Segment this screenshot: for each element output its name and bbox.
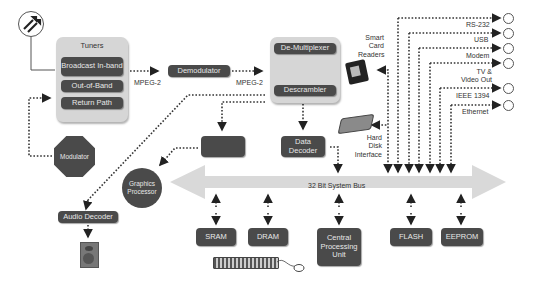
mouse-icon — [276, 254, 306, 274]
speaker-icon — [80, 242, 99, 268]
smart-card-icon — [345, 59, 369, 85]
eeprom-block[interactable]: EEPROM — [441, 228, 483, 246]
tuner-return-path[interactable]: Return Path — [61, 97, 123, 109]
port-usb[interactable] — [503, 28, 514, 39]
port-usb-label: USB — [474, 36, 488, 44]
cpu-block[interactable]: Central Processing Unit — [317, 228, 361, 266]
tuner-broadcast-inband[interactable]: Broadcast In-band — [61, 57, 123, 76]
port-rs232[interactable] — [503, 13, 514, 24]
demux-group: De-Multiplexer Descrambler — [270, 37, 340, 103]
dram-block[interactable]: DRAM — [248, 228, 288, 246]
system-bus-label: 32 Bit System Bus — [308, 182, 365, 190]
tuners-title: Tuners — [56, 41, 128, 50]
antenna-icon — [18, 11, 44, 37]
port-modem-label: Modem — [466, 52, 489, 60]
sram-block[interactable]: SRAM — [196, 228, 236, 246]
port-ieee1394-label: IEEE 1394 — [456, 92, 489, 100]
mpeg2-label-2: MPEG-2 — [236, 79, 263, 87]
descrambler-block[interactable]: Descrambler — [274, 85, 336, 96]
smart-card-label: Smart Card Readers — [358, 34, 384, 59]
tuner-out-of-band[interactable]: Out-of-Band — [61, 80, 123, 92]
tuners-group: Tuners Broadcast In-band Out-of-Band Ret… — [56, 37, 128, 122]
graphics-processor-label: Graphics Processor — [125, 180, 159, 196]
port-ethernet-label: Ethernet — [462, 108, 488, 116]
flash-block[interactable]: FLASH — [390, 228, 432, 246]
port-ethernet[interactable] — [503, 100, 514, 111]
hard-disk-label: Hard Disk Interface — [352, 134, 382, 159]
audio-decoder-block[interactable]: Audio Decoder — [58, 211, 118, 223]
keyboard-icon — [213, 257, 279, 269]
data-decoder-block[interactable]: Data Decoder — [281, 136, 325, 157]
port-tv-video-out-label: TV & Video Out — [458, 68, 492, 85]
port-modem[interactable] — [503, 43, 514, 54]
port-ieee1394[interactable] — [503, 83, 514, 94]
modulator-label: Modulator — [60, 153, 89, 160]
port-tv-video-out[interactable] — [503, 58, 514, 69]
mpeg2-label-1: MPEG-2 — [134, 79, 161, 87]
unlabeled-block[interactable] — [201, 136, 245, 157]
demultiplexer-block[interactable]: De-Multiplexer — [274, 43, 336, 54]
graphics-processor[interactable]: Graphics Processor — [122, 168, 162, 208]
demodulator-block[interactable]: Demodulator — [168, 65, 230, 77]
port-rs232-label: RS-232 — [466, 21, 490, 29]
